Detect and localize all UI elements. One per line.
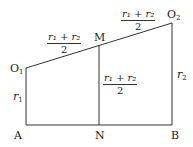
trapezoid-figure [0,0,193,147]
fraction-numerator: r₁ + r₂ [47,32,81,44]
point-label-M: M [94,32,105,43]
side-label-r2: r2 [177,69,187,82]
point-label-B: B [171,130,179,141]
point-O1-sub: 1 [19,68,23,76]
fraction-denominator: 2 [135,21,141,32]
point-label-O2: O2 [167,9,181,22]
fraction-numerator: r₁ + r₂ [121,9,155,21]
fraction-denominator: 2 [117,85,123,96]
fraction-label-O1M: r₁ + r₂ 2 [47,32,81,55]
side-label-r1: r1 [13,91,23,104]
fraction-label-MN: r₁ + r₂ 2 [103,73,137,96]
point-O2-sub: 2 [176,14,180,22]
point-O2-letter: O [167,8,176,21]
point-label-O1: O1 [10,63,24,76]
r1-sub: 1 [18,96,22,104]
fraction-denominator: 2 [61,44,67,55]
point-O1-letter: O [10,62,19,75]
point-label-A: A [14,130,22,141]
fraction-label-MO2: r₁ + r₂ 2 [121,9,155,32]
fraction-numerator: r₁ + r₂ [103,73,137,85]
r2-sub: 2 [182,74,186,82]
point-label-N: N [95,130,105,141]
